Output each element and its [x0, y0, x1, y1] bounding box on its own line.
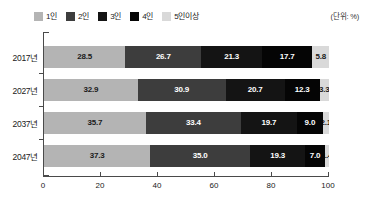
bar-segment-2인[interactable]: 35.0	[150, 145, 250, 167]
legend-item-2[interactable]: 2인	[66, 12, 89, 21]
bar-segment-4인[interactable]: 7.0	[305, 145, 325, 167]
bar-value-label: 2.1	[323, 118, 329, 128]
x-axis-tick-label: 60	[210, 181, 219, 190]
bar-segment-2인[interactable]: 26.7	[125, 46, 201, 68]
bar-segment-3인[interactable]: 19.7	[241, 112, 297, 134]
bar-segment-4인[interactable]: 9.0	[297, 112, 323, 134]
legend-item-label: 1인	[46, 12, 57, 21]
bar-segment-4인[interactable]: 17.7	[262, 46, 312, 68]
bar-value-label: 35.7	[87, 118, 102, 128]
y-axis-tick	[39, 139, 44, 140]
stacked-bar-chart: 1인2인3인4인5인이상 (단위: %) 2017년28.526.721.317…	[0, 0, 365, 207]
x-axis-tick-label: 20	[96, 181, 105, 190]
category-label: 2027년	[13, 84, 38, 96]
x-axis-tick	[100, 172, 101, 177]
legend-swatch-icon	[66, 12, 75, 21]
bar-segment-1인[interactable]: 37.3	[44, 145, 150, 167]
bar-rows: 2017년28.526.721.317.75.82027년32.930.920.…	[44, 32, 329, 176]
legend-item-5[interactable]: 5인이상	[162, 12, 199, 21]
bar-segment-3인[interactable]: 19.3	[250, 145, 305, 167]
legend-item-label: 5인이상	[174, 12, 199, 21]
bar-segment-2인[interactable]: 30.9	[138, 79, 226, 101]
x-axis-tick-label: 100	[321, 181, 334, 190]
bar-row: 2027년32.930.920.712.33.3	[44, 79, 329, 101]
bar-value-label: 26.7	[156, 52, 171, 62]
category-label: 2047년	[13, 150, 38, 162]
bar-value-label: 17.7	[280, 52, 295, 62]
x-axis-tick-label: 80	[267, 181, 276, 190]
x-axis-tick	[214, 172, 215, 177]
bar-segment-3인[interactable]: 21.3	[201, 46, 262, 68]
bar-value-label: 21.3	[224, 52, 239, 62]
bar-segment-3인[interactable]: 20.7	[226, 79, 285, 101]
unit-note: (단위: %)	[331, 10, 359, 21]
x-axis-tick	[328, 172, 329, 177]
category-label: 2017년	[13, 51, 38, 63]
legend-swatch-icon	[162, 12, 171, 21]
legend-item-label: 4인	[142, 12, 153, 21]
bar-segment-5인이상[interactable]: 5.8	[312, 46, 329, 68]
bar-value-label: 37.3	[90, 151, 105, 161]
bar-segment-1인[interactable]: 28.5	[44, 46, 125, 68]
bar-value-label: 1.4	[325, 151, 329, 161]
legend-item-3[interactable]: 3인	[98, 12, 121, 21]
bar-segment-1인[interactable]: 35.7	[44, 112, 146, 134]
bar-segment-4인[interactable]: 12.3	[285, 79, 320, 101]
bar-value-label: 19.3	[270, 151, 285, 161]
bar-row: 2047년37.335.019.37.01.4	[44, 145, 329, 167]
legend-item-label: 2인	[78, 12, 89, 21]
bar-value-label: 30.9	[174, 85, 189, 95]
plot-area: 2017년28.526.721.317.75.82027년32.930.920.…	[43, 32, 329, 176]
x-axis-tick-label: 40	[153, 181, 162, 190]
bar-value-label: 9.0	[305, 118, 316, 128]
x-axis-tick	[271, 172, 272, 177]
legend-swatch-icon	[34, 12, 43, 21]
bar-segment-5인이상[interactable]: 3.3	[320, 79, 329, 101]
bar-value-label: 35.0	[193, 151, 208, 161]
legend-item-label: 3인	[110, 12, 121, 21]
x-axis-tick-label: 0	[41, 181, 45, 190]
y-axis-tick	[39, 106, 44, 107]
y-axis-tick	[39, 73, 44, 74]
bar-segment-2인[interactable]: 33.4	[146, 112, 241, 134]
bar-segment-1인[interactable]: 32.9	[44, 79, 138, 101]
x-axis: 020406080100	[43, 176, 329, 177]
bar-segment-5인이상[interactable]: 1.4	[325, 145, 329, 167]
bar-value-label: 33.4	[186, 118, 201, 128]
bar-value-label: 12.3	[295, 85, 310, 95]
bar-value-label: 5.8	[315, 52, 326, 62]
legend-swatch-icon	[98, 12, 107, 21]
legend-item-1[interactable]: 1인	[34, 12, 57, 21]
legend-item-4[interactable]: 4인	[130, 12, 153, 21]
chart-legend: 1인2인3인4인5인이상	[34, 9, 199, 23]
bar-row: 2017년28.526.721.317.75.8	[44, 46, 329, 68]
category-label: 2037년	[13, 117, 38, 129]
bar-value-label: 28.5	[77, 52, 92, 62]
bar-value-label: 3.3	[320, 85, 329, 95]
bar-value-label: 7.0	[310, 151, 321, 161]
bar-row: 2037년35.733.419.79.02.1	[44, 112, 329, 134]
bar-value-label: 19.7	[262, 118, 277, 128]
x-axis-tick	[157, 172, 158, 177]
bar-value-label: 20.7	[248, 85, 263, 95]
x-axis-tick	[43, 172, 44, 177]
bar-segment-5인이상[interactable]: 2.1	[323, 112, 329, 134]
bar-value-label: 32.9	[83, 85, 98, 95]
legend-swatch-icon	[130, 12, 139, 21]
